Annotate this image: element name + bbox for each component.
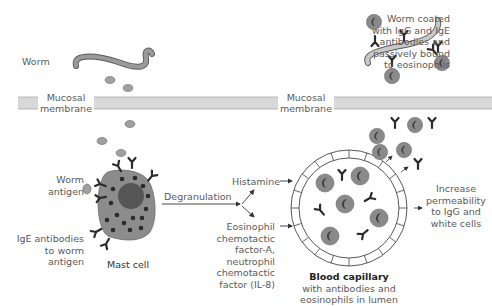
mucosal-membrane-label-left: Mucosal membrane (38, 92, 94, 114)
ige-antibodies-label: IgE antibodies to worm antigen (10, 233, 84, 268)
mast-cell-label: Mast cell (107, 259, 149, 271)
blood-capillary-icon (291, 150, 407, 266)
mucosal-membrane-label-right: Mucosal membrane (278, 92, 334, 114)
degranulation-label: Degranulation (164, 191, 232, 203)
diagram-canvas: Worm Worm coated with IgG and IgE antibo… (0, 0, 492, 306)
histamine-label: Histamine (232, 176, 280, 188)
worm-icon (76, 51, 152, 67)
worm-label: Worm (22, 56, 50, 68)
worm-antigen-label: Worm antigen (40, 174, 84, 197)
chemotactic-factor-label: Eosinophil chemotactic factor-A, neutrop… (200, 221, 275, 290)
mast-cell-icon (91, 158, 157, 249)
blood-capillary-label: Blood capillary with antibodies and eosi… (289, 271, 409, 306)
worm-coated-label: Worm coated with IgG and IgE antibodies … (335, 13, 450, 71)
increase-permeability-label: Increase permeability to IgG and white c… (420, 183, 492, 229)
